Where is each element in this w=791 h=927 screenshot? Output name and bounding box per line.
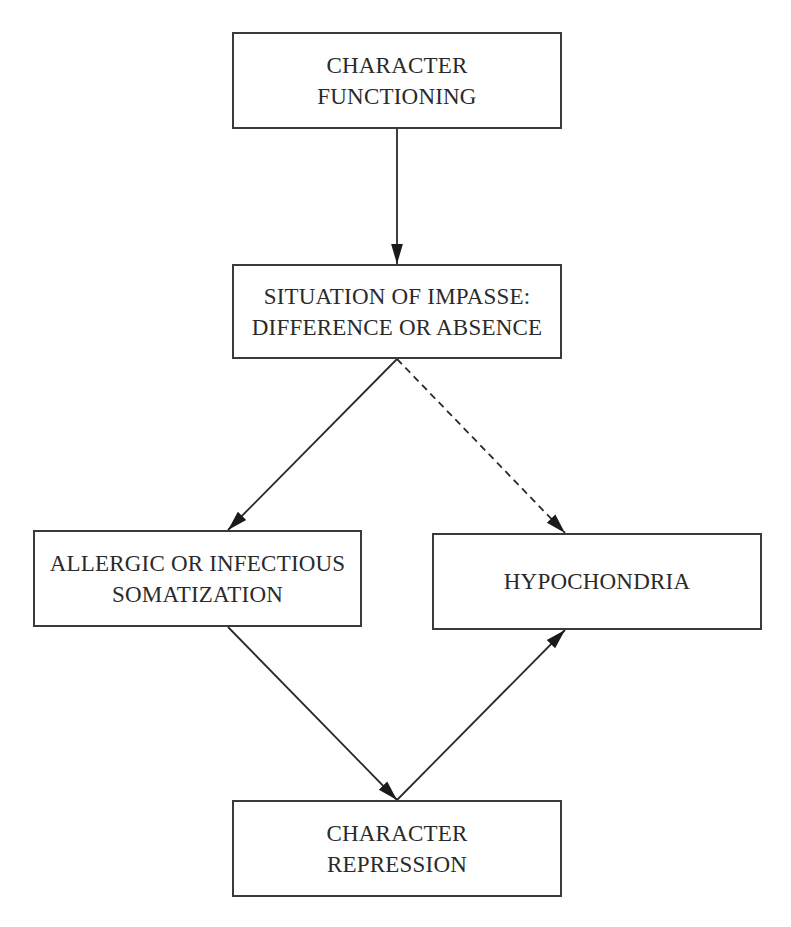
edge-somatization-to-repression (228, 627, 397, 800)
edge-impasse-to-somatization (228, 359, 397, 530)
node-label-line: CHARACTER (326, 818, 467, 849)
node-label-line: REPRESSION (327, 849, 467, 880)
node-label-line: SOMATIZATION (112, 579, 283, 610)
node-label-line: DIFFERENCE OR ABSENCE (252, 312, 542, 343)
node-label-line: ALLERGIC OR INFECTIOUS (50, 548, 346, 579)
edge-impasse-to-hypochondria-dashed (397, 359, 565, 533)
node-character-repression: CHARACTER REPRESSION (232, 800, 562, 897)
node-label-line: FUNCTIONING (317, 81, 476, 112)
diagram-canvas: CHARACTER FUNCTIONING SITUATION OF IMPAS… (0, 0, 791, 927)
node-character-functioning: CHARACTER FUNCTIONING (232, 32, 562, 129)
node-label-line: HYPOCHONDRIA (504, 566, 690, 597)
node-label-line: CHARACTER (326, 50, 467, 81)
edge-repression-to-hypochondria (397, 630, 565, 800)
edges-layer (0, 0, 791, 927)
node-hypochondria: HYPOCHONDRIA (432, 533, 762, 630)
node-situation-of-impasse: SITUATION OF IMPASSE: DIFFERENCE OR ABSE… (232, 264, 562, 359)
node-label-line: SITUATION OF IMPASSE: (264, 281, 531, 312)
node-allergic-somatization: ALLERGIC OR INFECTIOUS SOMATIZATION (33, 530, 362, 627)
